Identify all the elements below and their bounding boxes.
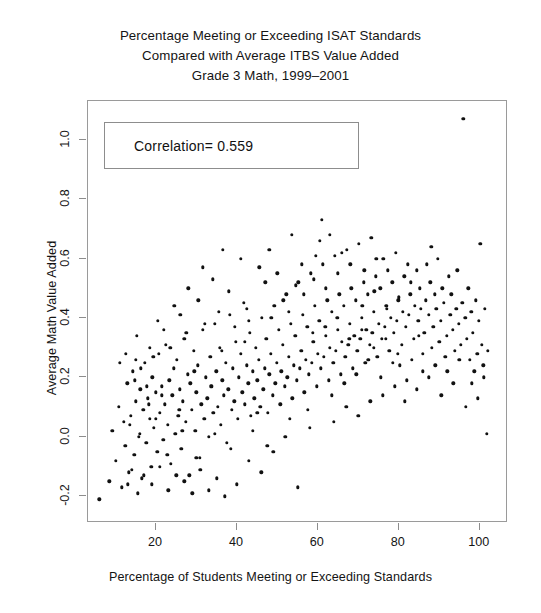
data-point — [473, 370, 476, 373]
data-point — [213, 432, 216, 435]
data-point — [395, 319, 398, 322]
data-point — [391, 361, 394, 364]
data-point — [268, 248, 271, 251]
data-point — [463, 316, 466, 319]
data-point — [290, 233, 293, 236]
chart-title-line-1: Percentage Meeting or Exceeding ISAT Sta… — [0, 26, 541, 46]
data-point — [340, 251, 343, 254]
data-point — [468, 358, 471, 361]
data-point — [283, 385, 286, 388]
data-point — [332, 420, 335, 423]
data-point — [306, 325, 309, 328]
y-axis-tick — [79, 436, 86, 437]
data-point — [298, 367, 301, 370]
data-point — [129, 414, 132, 417]
data-point — [186, 373, 189, 376]
data-point — [234, 340, 237, 343]
data-point — [447, 275, 450, 278]
data-point — [388, 349, 391, 352]
data-point — [275, 361, 278, 364]
data-point — [156, 319, 159, 322]
data-point — [380, 337, 383, 340]
data-point — [247, 382, 250, 385]
data-point — [251, 429, 254, 432]
data-point — [324, 287, 327, 290]
y-axis-tick-label: 0.2 — [58, 356, 72, 396]
data-point — [417, 334, 420, 337]
chart-title-line-2: Compared with Average ITBS Value Added — [0, 46, 541, 66]
data-point — [164, 343, 167, 346]
data-point — [189, 382, 192, 385]
data-point — [444, 355, 447, 358]
data-point — [183, 480, 186, 483]
data-point — [306, 408, 309, 411]
data-point — [157, 352, 160, 355]
data-point — [362, 281, 365, 284]
data-point — [150, 483, 153, 486]
data-point — [425, 263, 428, 266]
data-point — [245, 364, 248, 367]
data-point — [376, 355, 379, 358]
data-point — [339, 373, 342, 376]
data-point — [291, 396, 294, 399]
data-point — [435, 307, 438, 310]
data-point — [134, 358, 137, 361]
data-point — [379, 376, 382, 379]
data-point — [436, 257, 439, 260]
data-point — [459, 343, 462, 346]
data-point — [367, 358, 370, 361]
data-point — [166, 453, 169, 456]
data-point — [192, 349, 195, 352]
data-point — [321, 263, 324, 266]
data-point — [300, 349, 303, 352]
data-point — [208, 355, 211, 358]
data-point — [464, 405, 467, 408]
data-point — [344, 405, 347, 408]
data-point — [360, 316, 363, 319]
data-point — [407, 313, 410, 316]
data-point — [431, 325, 434, 328]
x-axis-title: Percentage of Students Meeting or Exceed… — [0, 570, 541, 584]
data-point — [419, 307, 422, 310]
data-point — [409, 292, 412, 295]
data-point — [363, 269, 366, 272]
data-point — [259, 405, 262, 408]
data-point — [274, 382, 277, 385]
data-point — [202, 417, 205, 420]
data-point — [450, 292, 453, 295]
data-point — [302, 292, 305, 295]
data-point — [462, 117, 465, 120]
data-point — [117, 405, 120, 408]
data-point — [221, 248, 224, 251]
data-point — [482, 364, 485, 367]
data-point — [138, 388, 141, 391]
data-point — [365, 328, 368, 331]
data-point — [372, 310, 375, 313]
data-point — [429, 281, 432, 284]
data-point — [336, 272, 339, 275]
data-point — [416, 319, 419, 322]
data-point — [361, 304, 364, 307]
data-point — [477, 319, 480, 322]
data-point — [216, 405, 219, 408]
data-point — [476, 396, 479, 399]
data-point — [111, 429, 114, 432]
data-point — [415, 388, 418, 391]
data-point — [148, 346, 151, 349]
chart-title: Percentage Meeting or Exceeding ISAT Sta… — [0, 26, 541, 86]
data-point — [397, 298, 400, 301]
data-point — [248, 331, 251, 334]
data-point — [415, 269, 418, 272]
data-point — [236, 417, 239, 420]
data-point — [403, 275, 406, 278]
data-point — [215, 477, 218, 480]
data-point — [421, 370, 424, 373]
data-point — [136, 492, 139, 495]
data-point — [140, 477, 143, 480]
x-axis-tick-label: 40 — [211, 535, 261, 549]
data-point — [143, 361, 146, 364]
data-point — [197, 298, 200, 301]
data-point — [371, 331, 374, 334]
data-point — [474, 298, 477, 301]
data-point — [401, 310, 404, 313]
